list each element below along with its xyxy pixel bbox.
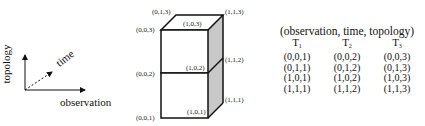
table-cell: (0,0,3) — [372, 52, 422, 63]
vertex-label-001: (0,0,1) — [136, 114, 155, 122]
column-header-t1: T1 — [272, 37, 322, 52]
table-cell: (1,0,3) — [372, 73, 422, 84]
vertex-label-003: (0,0,3) — [136, 26, 155, 34]
table-cell: (1,1,1) — [272, 84, 322, 95]
coordinate-table: (observation, time, topology) T1 T2 T3 (… — [272, 25, 422, 94]
table-row: (0,0,1) (0,0,2) (0,0,3) — [272, 52, 422, 63]
table-cell: (0,0,1) — [272, 52, 322, 63]
vertex-label-002: (0,0,2) — [136, 70, 155, 78]
table-cell: (1,0,1) — [272, 73, 322, 84]
column-header-t3: T3 — [372, 37, 422, 52]
time-axis-arrow — [25, 72, 52, 90]
column-header-t2: T2 — [322, 37, 372, 52]
table-cell: (1,0,2) — [322, 73, 372, 84]
vertex-label-102: (1,0,2) — [186, 64, 205, 72]
vertex-label-112: (1,1,2) — [225, 56, 244, 64]
table-column-headers: T1 T2 T3 — [272, 37, 422, 52]
observation-axis-label: observation — [60, 96, 111, 108]
topology-axis-label: topology — [0, 44, 12, 83]
table-cell: (1,1,2) — [322, 84, 372, 95]
vertex-label-101: (1,0,1) — [187, 108, 206, 116]
vertex-label-013: (0,1,3) — [152, 8, 171, 16]
vertex-label-113: (1,1,3) — [225, 8, 244, 16]
vertex-label-103: (1,0,3) — [183, 20, 202, 28]
table-row: (1,0,1) (1,0,2) (1,0,3) — [272, 73, 422, 84]
table-cell: (0,0,2) — [322, 52, 372, 63]
vertex-label-111: (1,1,1) — [225, 96, 244, 104]
table-row: (1,1,1) (1,1,2) (1,1,3) — [272, 84, 422, 95]
table-cell: (1,1,3) — [372, 84, 422, 95]
